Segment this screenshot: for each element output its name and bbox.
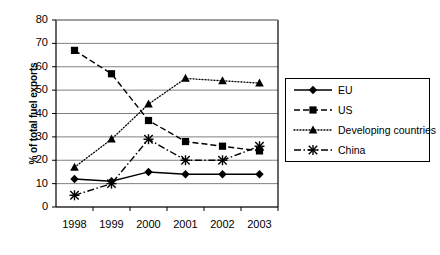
data-point-diamond bbox=[70, 175, 78, 183]
legend-item-us[interactable]: US bbox=[292, 100, 353, 120]
y-tick-label: 40 bbox=[22, 108, 48, 119]
legend-swatch-cross-icon bbox=[292, 143, 334, 157]
data-point-square bbox=[108, 70, 115, 77]
data-point-triangle bbox=[218, 76, 227, 84]
data-point-triangle bbox=[181, 74, 190, 82]
legend-item-eu[interactable]: EU bbox=[292, 80, 353, 100]
data-point-cross bbox=[255, 141, 265, 151]
data-point-cross bbox=[181, 155, 191, 165]
y-tick-label: 60 bbox=[22, 61, 48, 72]
y-tick-label: 80 bbox=[22, 14, 48, 25]
data-point-cross bbox=[144, 134, 154, 144]
x-tick-label: 2003 bbox=[237, 219, 283, 230]
axis-tick-marks bbox=[52, 20, 278, 211]
data-point-cross bbox=[218, 155, 228, 165]
data-point-square bbox=[145, 117, 152, 124]
legend-swatch-triangle-icon bbox=[292, 123, 334, 137]
data-point-triangle bbox=[70, 163, 79, 171]
legend-label: US bbox=[338, 104, 353, 116]
legend-swatch-square-icon bbox=[292, 103, 334, 117]
series-china bbox=[70, 134, 265, 200]
y-tick-label: 70 bbox=[22, 37, 48, 48]
data-point-diamond bbox=[144, 168, 152, 176]
data-point-diamond bbox=[218, 170, 226, 178]
legend-item-developing-countries[interactable]: Developing countries bbox=[292, 120, 436, 140]
series-us bbox=[71, 47, 263, 155]
line-chart: % of total fuel exports 0102030405060708… bbox=[0, 0, 440, 255]
data-point-cross bbox=[107, 179, 117, 189]
data-point-square bbox=[71, 47, 78, 54]
data-point-square bbox=[182, 138, 189, 145]
legend: EUUSDeveloping countriesChina bbox=[285, 78, 430, 162]
data-point-diamond bbox=[255, 170, 263, 178]
data-point-triangle bbox=[144, 100, 153, 108]
legend-swatch-diamond-icon bbox=[292, 83, 334, 97]
legend-item-china[interactable]: China bbox=[292, 140, 365, 160]
y-tick-label: 20 bbox=[22, 154, 48, 165]
data-point-diamond bbox=[309, 86, 317, 94]
legend-label: China bbox=[338, 144, 365, 156]
legend-label: Developing countries bbox=[338, 124, 436, 136]
data-point-diamond bbox=[181, 170, 189, 178]
data-point-cross bbox=[70, 190, 80, 200]
y-tick-label: 50 bbox=[22, 84, 48, 95]
legend-label: EU bbox=[338, 84, 353, 96]
data-point-cross bbox=[308, 145, 318, 155]
y-tick-label: 10 bbox=[22, 178, 48, 189]
data-point-square bbox=[309, 106, 316, 113]
data-series-layer bbox=[70, 47, 265, 201]
y-tick-label: 0 bbox=[22, 201, 48, 212]
series-eu bbox=[70, 168, 263, 186]
data-point-square bbox=[219, 143, 226, 150]
y-tick-label: 30 bbox=[22, 131, 48, 142]
grid-lines bbox=[56, 20, 278, 207]
